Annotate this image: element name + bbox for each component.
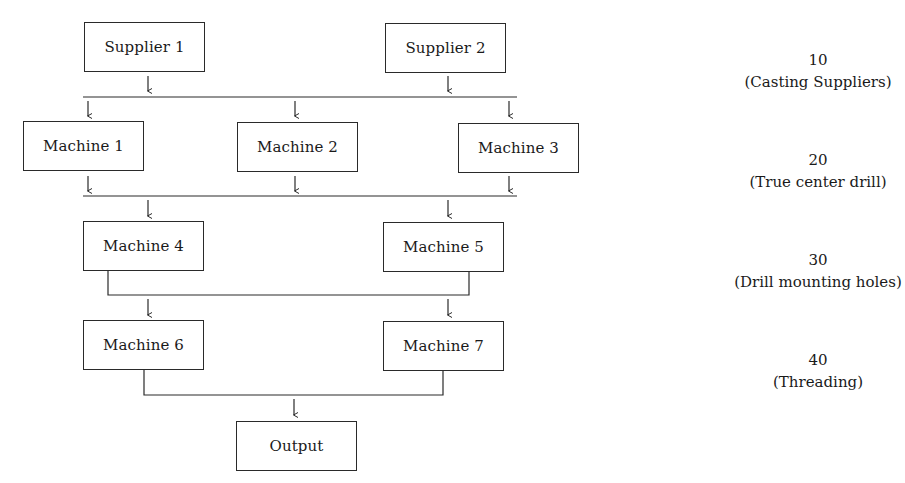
node-machine-3: Machine 3 (458, 123, 579, 173)
node-machine-7: Machine 7 (383, 321, 504, 371)
node-machine-5: Machine 5 (383, 222, 504, 272)
stage-label-30: 30 (Drill mounting holes) (718, 249, 905, 293)
node-label: Machine 7 (403, 337, 484, 355)
node-label: Machine 1 (43, 137, 124, 155)
stage-code: 20 (718, 149, 905, 171)
node-machine-1: Machine 1 (23, 121, 144, 171)
stage-code: 40 (718, 349, 905, 371)
node-supplier-1: Supplier 1 (84, 22, 205, 72)
stage-code: 30 (718, 249, 905, 271)
bracket-stage-40 (144, 370, 443, 395)
node-label: Supplier 2 (405, 39, 485, 57)
node-label: Output (270, 437, 324, 455)
node-machine-2: Machine 2 (237, 122, 358, 172)
node-label: Machine 4 (103, 237, 184, 255)
stage-description: (True center drill) (718, 171, 905, 193)
node-machine-6: Machine 6 (83, 320, 204, 370)
node-supplier-2: Supplier 2 (385, 23, 506, 73)
node-output: Output (236, 421, 357, 471)
node-label: Supplier 1 (104, 38, 184, 56)
node-label: Machine 6 (103, 336, 184, 354)
node-label: Machine 3 (478, 139, 559, 157)
stage-description: (Casting Suppliers) (718, 71, 905, 93)
node-machine-4: Machine 4 (83, 221, 204, 271)
stage-label-20: 20 (True center drill) (718, 149, 905, 193)
node-label: Machine 2 (257, 138, 338, 156)
stage-code: 10 (718, 49, 905, 71)
stage-label-40: 40 (Threading) (718, 349, 905, 393)
bracket-stage-30 (108, 271, 469, 295)
stage-label-10: 10 (Casting Suppliers) (718, 49, 905, 93)
stage-description: (Threading) (718, 371, 905, 393)
stage-description: (Drill mounting holes) (718, 271, 905, 293)
node-label: Machine 5 (403, 238, 484, 256)
flow-diagram: Supplier 1 Supplier 2 Machine 1 Machine … (0, 0, 905, 483)
